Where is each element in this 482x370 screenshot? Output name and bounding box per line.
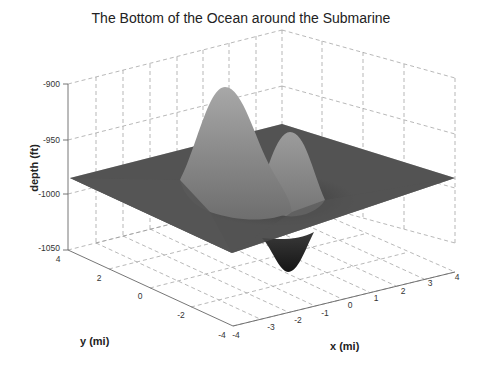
svg-text:-1000: -1000 xyxy=(38,189,60,199)
y-axis-line xyxy=(68,250,233,326)
svg-text:4: 4 xyxy=(56,254,61,264)
svg-text:-1: -1 xyxy=(321,308,329,318)
svg-text:0: 0 xyxy=(348,300,353,310)
svg-text:4: 4 xyxy=(455,272,460,282)
svg-text:-4: -4 xyxy=(232,330,240,340)
svg-text:-2: -2 xyxy=(294,315,302,325)
surface-plot: The Bottom of the Ocean around the Subma… xyxy=(0,0,482,370)
x-axis-line xyxy=(233,272,455,326)
x-tick-labels: -4 -3 -2 -1 0 1 2 3 4 xyxy=(232,272,459,340)
svg-text:-4: -4 xyxy=(218,330,226,340)
chart-title: The Bottom of the Ocean around the Subma… xyxy=(92,10,391,26)
svg-text:-2: -2 xyxy=(177,310,185,320)
svg-text:3: 3 xyxy=(428,278,433,288)
y-axis-label: y (mi) xyxy=(80,335,110,347)
z-tick-labels: -900 -950 -1000 -1050 xyxy=(38,79,60,253)
z-axis-label: depth (ft) xyxy=(28,144,40,192)
x-axis-label: x (mi) xyxy=(330,340,360,352)
y-tick-labels: 4 2 0 -2 -4 xyxy=(56,254,226,340)
ocean-floor-surface xyxy=(70,87,455,272)
svg-text:2: 2 xyxy=(401,286,406,296)
svg-text:-950: -950 xyxy=(43,135,60,145)
svg-text:1: 1 xyxy=(374,293,379,303)
svg-text:0: 0 xyxy=(138,291,143,301)
svg-text:-3: -3 xyxy=(267,322,275,332)
svg-text:2: 2 xyxy=(97,273,102,283)
svg-text:-900: -900 xyxy=(43,79,60,89)
svg-text:-1050: -1050 xyxy=(38,243,60,253)
